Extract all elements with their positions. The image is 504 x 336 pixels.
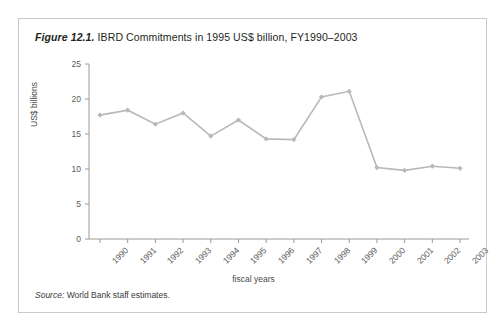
- y-tick-label: 10: [55, 165, 81, 174]
- figure-number: Figure 12.1.: [35, 31, 95, 43]
- series-markers: [97, 89, 462, 173]
- data-point-marker: [125, 108, 130, 113]
- data-point-marker: [347, 89, 352, 94]
- plot-area: 0510152025 19901991199219931994199519961…: [71, 64, 471, 264]
- y-axis-title: US$ billions: [29, 82, 39, 127]
- source-text: World Bank staff estimates.: [64, 290, 170, 300]
- chart-canvas: [71, 64, 471, 264]
- data-point-marker: [97, 113, 102, 118]
- figure-panel: Figure 12.1. IBRD Commitments in 1995 US…: [18, 18, 487, 313]
- figure-title: Figure 12.1. IBRD Commitments in 1995 US…: [35, 31, 358, 43]
- y-axis-ticks: [85, 64, 89, 239]
- source-label: Source:: [35, 290, 64, 300]
- data-point-marker: [153, 122, 158, 127]
- data-point-marker: [457, 166, 462, 171]
- y-tick-label: 15: [55, 130, 81, 139]
- x-axis-ticks: [100, 239, 460, 243]
- source-note: Source: World Bank staff estimates.: [35, 290, 170, 300]
- figure-title-text: IBRD Commitments in 1995 US$ billion, FY…: [95, 31, 358, 43]
- y-tick-label: 5: [55, 200, 81, 209]
- series-line-ibrd-commitments: [100, 91, 460, 170]
- y-tick-label: 0: [55, 235, 81, 244]
- axis-lines: [89, 64, 469, 239]
- data-point-marker: [374, 165, 379, 170]
- y-tick-label: 25: [55, 60, 81, 69]
- x-tick-label: 2003: [471, 246, 490, 265]
- data-point-marker: [402, 168, 407, 173]
- y-tick-label: 20: [55, 95, 81, 104]
- data-point-marker: [430, 164, 435, 169]
- x-axis-title: fiscal years: [19, 274, 488, 284]
